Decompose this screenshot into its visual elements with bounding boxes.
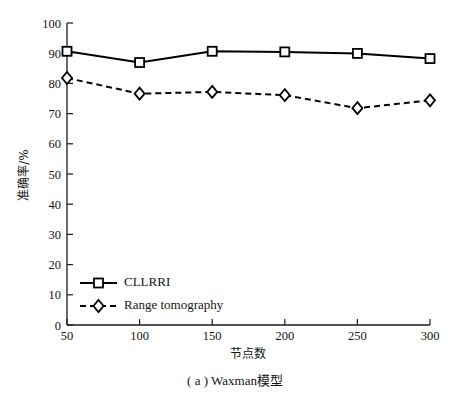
series-range-tomography-marker — [62, 72, 72, 84]
series-cllrri-marker — [280, 47, 289, 56]
x-tick-label-100: 100 — [130, 329, 149, 343]
y-tick-label-20: 20 — [49, 258, 62, 272]
series-range-tomography-marker — [425, 94, 435, 106]
y-tick-labels: 0 10 20 30 40 50 60 70 80 90 100 — [42, 17, 61, 333]
y-tick-label-80: 80 — [49, 77, 62, 91]
x-tick-label-200: 200 — [275, 329, 294, 343]
legend-entry-cllrri[interactable]: CLLRRI — [80, 274, 170, 289]
legend-label-range-tomography: Range tomography — [124, 297, 224, 312]
y-tick-label-50: 50 — [49, 168, 62, 182]
line-chart-canvas: 0 10 20 30 40 50 60 70 80 90 100 50 100 … — [0, 0, 465, 403]
figure-caption: ( a ) Waxman模型 — [187, 373, 283, 388]
series-cllrri-marker — [426, 54, 435, 63]
y-tick-label-60: 60 — [49, 137, 62, 151]
y-tick-marks — [67, 23, 73, 325]
series-range-tomography-marker — [280, 89, 290, 101]
series-range-tomography-marker — [207, 86, 217, 98]
x-axis-title: 节点数 — [230, 346, 266, 361]
series-range-tomography-marker — [352, 102, 362, 114]
x-tick-label-150: 150 — [203, 329, 222, 343]
series-cllrri — [63, 47, 435, 67]
series-cllrri-marker — [208, 47, 217, 56]
series-cllrri-marker — [63, 47, 72, 56]
axes-group — [67, 23, 430, 325]
y-axis-title: 准确率/% — [16, 149, 31, 200]
x-tick-label-250: 250 — [348, 329, 367, 343]
y-tick-label-70: 70 — [49, 107, 62, 121]
legend-swatch-marker-cllrri — [94, 279, 103, 288]
x-tick-labels: 50 100 150 200 250 300 — [61, 329, 440, 343]
series-range-tomography — [62, 72, 435, 114]
series-range-tomography-line — [67, 78, 430, 108]
y-tick-label-30: 30 — [49, 228, 62, 242]
series-cllrri-line — [67, 51, 430, 62]
x-tick-marks — [67, 319, 430, 325]
figure-waxman-model: 0 10 20 30 40 50 60 70 80 90 100 50 100 … — [0, 0, 465, 403]
series-cllrri-marker — [353, 49, 362, 58]
x-tick-label-300: 300 — [421, 329, 440, 343]
x-tick-label-50: 50 — [61, 329, 74, 343]
series-range-tomography-marker — [135, 88, 145, 100]
y-tick-label-40: 40 — [49, 198, 62, 212]
series-cllrri-marker — [135, 58, 144, 67]
y-tick-label-10: 10 — [49, 288, 62, 302]
legend-swatch-marker-range-tomography — [94, 300, 104, 312]
legend: CLLRRI Range tomography — [80, 274, 224, 312]
y-tick-label-100: 100 — [42, 17, 61, 31]
legend-entry-range-tomography[interactable]: Range tomography — [80, 297, 224, 312]
legend-label-cllrri: CLLRRI — [124, 274, 170, 289]
y-tick-label-90: 90 — [49, 47, 62, 61]
